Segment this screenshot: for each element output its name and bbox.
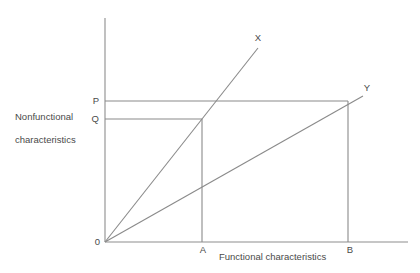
line-x-label: X — [255, 32, 262, 43]
x-axis-title: Functional characteristics — [219, 251, 326, 262]
y-axis-title-line1: Nonfunctional — [15, 111, 73, 122]
diagram-root: X Y P Q 0 A B Nonfunctional characterist… — [0, 0, 420, 273]
origin-label: 0 — [95, 236, 100, 247]
y-axis-title-line2: characteristics — [15, 134, 76, 145]
tick-label-b: B — [347, 244, 353, 255]
line-x — [105, 48, 258, 242]
line-y-label: Y — [364, 82, 371, 93]
tick-label-q: Q — [92, 113, 99, 124]
line-y — [105, 96, 363, 242]
tick-label-p: P — [93, 95, 99, 106]
tradeoff-diagram: X Y P Q 0 A B Nonfunctional characterist… — [0, 0, 420, 273]
tick-label-a: A — [200, 244, 207, 255]
